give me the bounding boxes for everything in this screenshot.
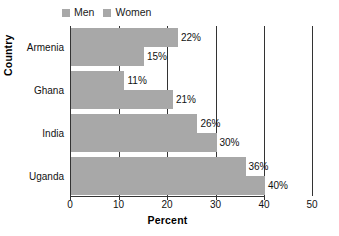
- y-tick-uganda: Uganda: [29, 171, 64, 182]
- legend-swatch-men-icon: [62, 9, 70, 17]
- x-tick-0: 0: [67, 199, 73, 210]
- bar-label-armenia-women: 15%: [144, 47, 167, 66]
- bar-label-armenia-men: 22%: [178, 28, 201, 47]
- x-tick-50: 50: [306, 199, 317, 210]
- x-axis-title: Percent: [70, 214, 265, 226]
- bar-ghana-men[interactable]: [71, 71, 124, 90]
- y-tick-armenia: Armenia: [27, 42, 64, 53]
- bar-chart: Men Women Country Armenia Ghana India Ug…: [0, 0, 339, 236]
- bar-uganda-women[interactable]: [71, 176, 265, 195]
- x-tick-30: 30: [210, 199, 221, 210]
- bar-label-uganda-men: 36%: [246, 157, 269, 176]
- plot-area: 22% 15% 11% 21% 26% 30% 36% 40%: [70, 26, 313, 196]
- legend-item-women[interactable]: Women: [103, 7, 151, 18]
- bar-ghana-women[interactable]: [71, 90, 173, 109]
- y-tick-ghana: Ghana: [34, 85, 64, 96]
- bar-label-india-women: 30%: [217, 133, 240, 152]
- legend-item-men[interactable]: Men: [62, 7, 94, 18]
- bar-uganda-men[interactable]: [71, 157, 246, 176]
- x-tick-40: 40: [258, 199, 269, 210]
- bar-label-ghana-women: 21%: [173, 90, 196, 109]
- chart-legend: Men Women: [62, 6, 151, 19]
- bar-label-uganda-women: 40%: [265, 176, 288, 195]
- y-tick-india: India: [42, 128, 64, 139]
- x-tick-10: 10: [113, 199, 124, 210]
- x-tick-20: 20: [161, 199, 172, 210]
- y-axis-tick-labels: Armenia Ghana India Uganda: [0, 26, 68, 196]
- bar-india-women[interactable]: [71, 133, 217, 152]
- legend-label-men: Men: [74, 7, 94, 18]
- bar-armenia-men[interactable]: [71, 28, 178, 47]
- bar-india-men[interactable]: [71, 114, 197, 133]
- bar-label-ghana-men: 11%: [125, 71, 147, 90]
- gridline-50: [312, 26, 313, 196]
- bar-label-india-men: 26%: [198, 114, 221, 133]
- legend-label-women: Women: [115, 7, 151, 18]
- legend-swatch-women-icon: [103, 9, 111, 17]
- bar-armenia-women[interactable]: [71, 47, 144, 66]
